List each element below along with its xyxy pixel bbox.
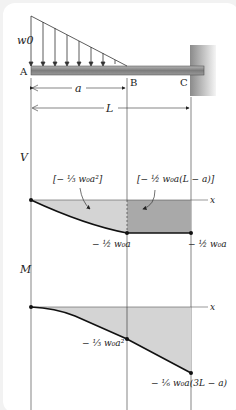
distributed-load (29, 16, 127, 66)
dim-l-label: L (105, 102, 113, 115)
point-a-label: A (19, 66, 28, 77)
shear-area-right: [− ½ w₀a(L − a)] (137, 174, 215, 184)
shear-area-left: [− ⅓ w₀a²] (53, 174, 103, 184)
beam (31, 66, 204, 75)
shear-value-b: − ½ w₀a (92, 239, 131, 249)
dim-a-label: a (75, 82, 82, 95)
load-label: w0 (17, 34, 33, 47)
shear-diagram (29, 188, 208, 235)
shear-value-c: − ½ w₀a (188, 239, 227, 249)
shear-axis-label: V (20, 151, 29, 164)
point-c-label: C (180, 77, 188, 88)
moment-value-c: − ⅙ w₀a(3L − a) (151, 378, 228, 388)
shear-x-label: x (210, 195, 215, 205)
beam-diagram: w0 A B C a L V x [− ⅓ w₀a²] [− ½ w₀a(L −… (0, 0, 236, 410)
moment-value-b: − ⅓ w₀a² (82, 338, 125, 348)
point-b-label: B (130, 77, 137, 88)
moment-x-label: x (210, 302, 215, 312)
moment-axis-label: M (19, 263, 32, 276)
